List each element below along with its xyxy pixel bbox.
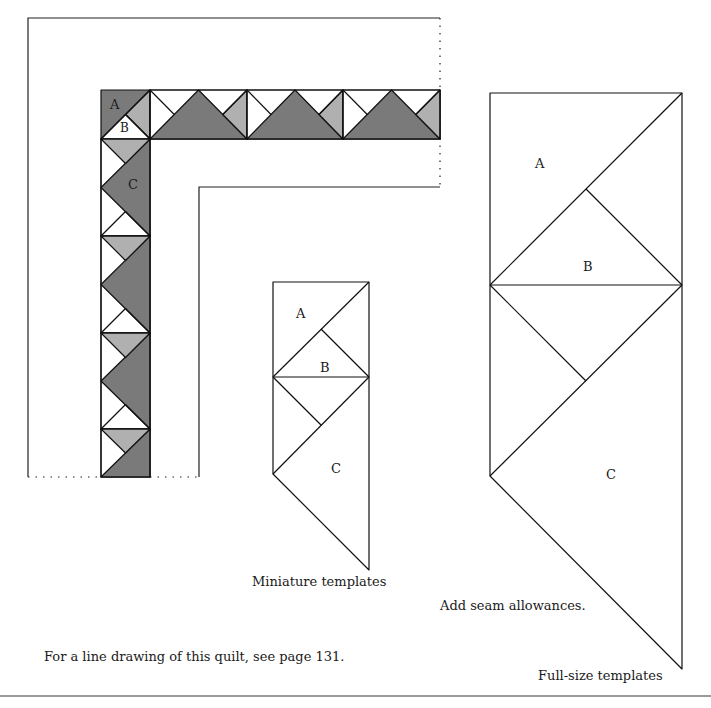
line-drawing-note: For a line drawing of this quilt, see pa…	[44, 649, 344, 664]
miniature-label-a: A	[296, 306, 305, 321]
page-bottom-rule	[0, 695, 711, 697]
fullsize-templates	[490, 93, 682, 669]
quilt-corner-diagram	[0, 0, 711, 708]
seam-allowance-note: Add seam allowances.	[440, 598, 586, 613]
miniature-templates-caption: Miniature templates	[252, 574, 386, 589]
horizontal-border-strip	[101, 90, 440, 139]
quilt-label-c: C	[128, 177, 138, 192]
miniature-label-c: C	[331, 461, 341, 476]
vertical-border-strip	[101, 139, 150, 477]
fullsize-templates-caption: Full-size templates	[538, 668, 663, 683]
miniature-label-b: B	[320, 360, 330, 375]
miniature-templates	[273, 282, 369, 570]
outer-border	[28, 18, 440, 477]
quilt-label-b: B	[120, 121, 129, 135]
fullsize-label-a: A	[535, 156, 544, 171]
quilt-label-a: A	[110, 97, 119, 112]
fullsize-label-b: B	[583, 259, 593, 274]
fullsize-label-c: C	[606, 467, 616, 482]
